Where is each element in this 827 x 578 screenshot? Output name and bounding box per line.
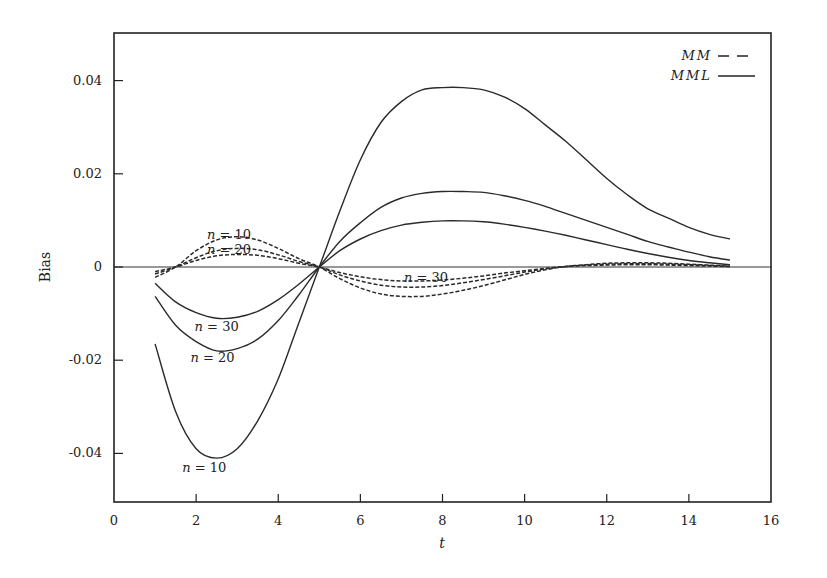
y-tick-label: 0.04	[73, 73, 102, 88]
y-tick-label: -0.02	[69, 352, 102, 367]
x-axis-label: t	[439, 535, 445, 551]
y-axis-label: Bias	[37, 252, 53, 282]
legend-label-mm: MM	[680, 48, 712, 63]
x-tick-label: 0	[110, 513, 118, 528]
x-tick-label: 4	[274, 513, 282, 528]
curve-annotation: n = 30	[195, 319, 239, 334]
curve-annotation: n = 10	[207, 227, 251, 242]
x-tick-label: 2	[192, 513, 200, 528]
y-tick-label: 0	[94, 259, 102, 274]
y-tick-label: 0.02	[73, 166, 102, 181]
y-axis-ticks: -0.04-0.0200.020.04	[69, 73, 123, 461]
y-tick-label: -0.04	[69, 445, 102, 460]
curve-annotation: n = 20	[207, 242, 251, 257]
curve-annotation: n = 20	[191, 350, 235, 365]
x-tick-label: 8	[438, 513, 446, 528]
x-tick-label: 6	[356, 513, 364, 528]
x-tick-label: 10	[516, 513, 533, 528]
curve-annotation: n = 30	[404, 270, 448, 285]
x-tick-label: 16	[763, 513, 780, 528]
bias-line-chart: 0246810121416 -0.04-0.0200.020.04 t Bias…	[0, 0, 827, 578]
x-tick-label: 14	[681, 513, 698, 528]
legend: MM MML	[670, 48, 755, 83]
curve-annotation: n = 10	[182, 460, 226, 475]
x-tick-label: 12	[598, 513, 615, 528]
legend-label-mml: MML	[670, 68, 712, 83]
x-axis-ticks: 0246810121416	[110, 494, 779, 528]
